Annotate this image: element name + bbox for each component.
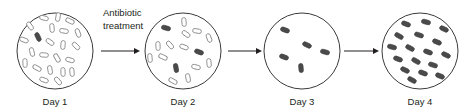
resistant-bacterium-day-3-4 — [298, 63, 303, 73]
susceptible-bacterium-day-1-4 — [50, 23, 55, 32]
diagram-canvas: Day 1Day 2Day 3Day 4 Antibiotic treatmen… — [0, 0, 475, 112]
susceptible-bacterium-day-1-21 — [70, 67, 75, 76]
dish-label-day-1: Day 1 — [43, 96, 68, 107]
susceptible-bacterium-day-2-4 — [156, 42, 161, 51]
dish-label-day-3: Day 3 — [290, 96, 315, 107]
susceptible-bacterium-day-1-18 — [61, 68, 66, 77]
arrow-1 — [101, 48, 140, 54]
arrow-3-head — [373, 48, 379, 54]
susceptible-bacterium-day-1-9 — [61, 40, 66, 49]
susceptible-bacterium-day-2-10 — [207, 58, 212, 67]
petri-dish-day-3: Day 3 — [264, 13, 340, 107]
antibiotic-treatment-label-line1: Antibiotic — [103, 7, 142, 18]
susceptible-bacterium-day-1-12 — [39, 53, 48, 58]
antibiotic-resistance-diagram: Day 1Day 2Day 3Day 4 Antibiotic treatmen… — [0, 0, 475, 112]
dish-label-day-2: Day 2 — [171, 96, 196, 107]
susceptible-bacterium-day-2-0 — [182, 17, 187, 26]
labels-layer: Antibiotic treatment — [103, 7, 143, 31]
dish-outline-day-4 — [382, 13, 458, 89]
petri-dish-day-1: Day 1 — [17, 12, 93, 107]
petri-dish-day-4: Day 4 — [382, 13, 458, 107]
dish-label-day-4: Day 4 — [408, 96, 433, 107]
arrow-2 — [228, 48, 262, 54]
antibiotic-treatment-label-line2: treatment — [103, 20, 143, 31]
arrow-3 — [344, 48, 379, 54]
susceptible-bacterium-day-2-7 — [148, 53, 153, 62]
susceptible-bacterium-day-1-15 — [23, 59, 28, 68]
petri-dish-day-2: Day 2 — [145, 13, 221, 107]
petri-dishes-layer: Day 1Day 2Day 3Day 4 — [17, 12, 458, 107]
arrow-2-head — [256, 48, 262, 54]
arrow-1-head — [134, 48, 140, 54]
